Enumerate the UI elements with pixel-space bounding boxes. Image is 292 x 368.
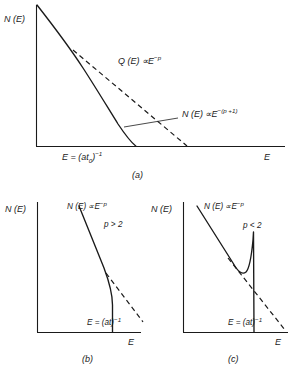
- panel-b: N (E) E N (E) ∝E−p p > 2 E = (at)−1 (b): [5, 200, 143, 364]
- panel-a-cutoff-label: E = (at0)−1: [62, 150, 102, 163]
- panel-a-caption: (a): [132, 170, 143, 180]
- panel-a-x-axis-label: E: [264, 152, 271, 162]
- panel-b-caption: (b): [82, 354, 93, 364]
- panel-b-y-axis-label: N (E): [5, 204, 26, 214]
- panel-c-annotation-spectrum-powerlaw: N (E) ∝E−p: [204, 200, 244, 211]
- panel-b-x-axis-label: E: [128, 337, 135, 347]
- panel-a-y-axis-label: N (E): [4, 14, 25, 24]
- panel-a: N (E) E Q (E) ∝E−p N (E) ∝E−(p +1) E = (…: [4, 5, 285, 180]
- panel-c-y-axis-label: N (E): [151, 204, 172, 214]
- panel-a-annotation-source-spectrum: Q (E) ∝E−p: [118, 54, 162, 66]
- panel-c-x-axis-label: E: [275, 337, 282, 347]
- panel-a-leader-line: [124, 118, 178, 127]
- panel-c-caption: (c): [228, 354, 239, 364]
- figure-svg: N (E) E Q (E) ∝E−p N (E) ∝E−(p +1) E = (…: [0, 0, 292, 368]
- panel-b-annotation-spectrum-powerlaw: N (E) ∝E−p: [67, 200, 107, 211]
- panel-b-cutoff-label: E = (at)−1: [87, 316, 121, 327]
- panel-a-curve-solid: [37, 5, 136, 146]
- panel-c: N (E) E N (E) ∝E−p p < 2 E = (at)−1 (c): [151, 200, 288, 364]
- panel-a-annotation-particle-spectrum: N (E) ∝E−(p +1): [182, 107, 237, 119]
- panel-c-annotation-index-condition: p < 2: [242, 221, 262, 230]
- figure-root: N (E) E Q (E) ∝E−p N (E) ∝E−(p +1) E = (…: [0, 0, 292, 368]
- panel-c-cutoff-label: E = (at)−1: [228, 316, 262, 327]
- panel-b-annotation-index-condition: p > 2: [103, 220, 123, 229]
